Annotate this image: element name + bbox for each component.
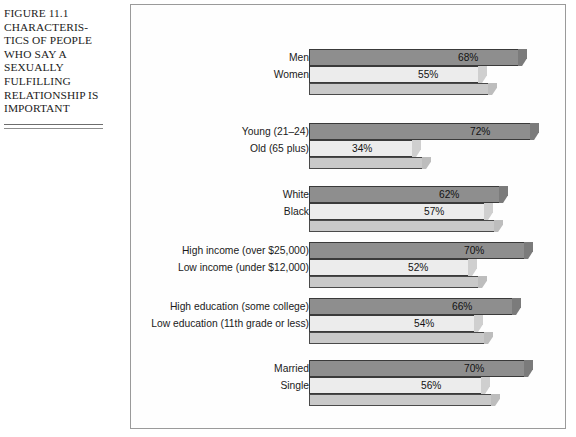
bar-row: Women55%	[131, 66, 567, 83]
base-plate-end-cap-3d	[488, 83, 497, 95]
figure-caption: FIGURE 11.1 CHARACTERIS- TICS OF PEOPLE …	[4, 7, 116, 129]
bar-wrapper: 56%	[309, 377, 483, 394]
bar-end-cap-3d	[412, 140, 421, 157]
bar-category-label: Black	[284, 204, 309, 219]
bar-end-cap-3d	[468, 259, 477, 276]
bar-category-label: Old (65 plus)	[250, 141, 309, 156]
bar-wrapper: 72%	[309, 123, 532, 140]
bar-category-label: White	[283, 187, 309, 202]
bar-value-label: 52%	[408, 260, 428, 275]
bar-end-cap-3d	[484, 203, 493, 220]
bar-value-label: 62%	[439, 187, 459, 202]
bar-end-cap-3d	[524, 242, 533, 259]
base-plate-end-cap-3d	[491, 394, 500, 406]
bar-group-marital-status: Married70%Single56%	[131, 360, 567, 408]
bar-category-label: Single	[280, 378, 309, 393]
bar-end-cap-3d	[512, 298, 521, 315]
bar-row: Men68%	[131, 49, 567, 66]
bar	[309, 259, 470, 276]
bar-value-label: 72%	[470, 124, 490, 139]
bar-value-label: 57%	[424, 204, 444, 219]
bar-category-label: Low education (11th grade or less)	[151, 316, 309, 331]
bar-wrapper: 57%	[309, 203, 486, 220]
bar-group-gender: Men68%Women55%	[131, 49, 567, 97]
bar-category-label: Women	[274, 67, 309, 82]
bar-wrapper: 34%	[309, 140, 414, 157]
bar-end-cap-3d	[524, 360, 533, 377]
bar-wrapper: 62%	[309, 186, 501, 203]
bar-row: Low education (11th grade or less)54%	[131, 315, 567, 332]
bar-group-race: White62%Black57%	[131, 186, 567, 234]
bar-row: Low income (under $12,000)52%	[131, 259, 567, 276]
bar	[309, 49, 520, 66]
bar-row: Black57%	[131, 203, 567, 220]
bar	[309, 315, 476, 332]
bar-value-label: 54%	[414, 316, 434, 331]
bar-category-label: Young (21–24)	[242, 124, 309, 139]
base-plate-end-cap-3d	[422, 157, 431, 169]
bar-end-cap-3d	[530, 123, 539, 140]
bar-row: Single56%	[131, 377, 567, 394]
base-plate-end-cap-3d	[478, 276, 487, 288]
bar-category-label: High education (some college)	[170, 299, 309, 314]
bar-end-cap-3d	[478, 66, 487, 83]
bar-wrapper: 54%	[309, 315, 476, 332]
bar-group-base-plate	[309, 220, 496, 232]
bar-row: High income (over $25,000)70%	[131, 242, 567, 259]
figure-caption-line: IMPORTANT	[4, 102, 116, 116]
bar-group-education: High education (some college)66%Low educ…	[131, 298, 567, 346]
bar-wrapper: 52%	[309, 259, 470, 276]
bar	[309, 242, 526, 259]
bar-end-cap-3d	[474, 315, 483, 332]
bar	[309, 186, 501, 203]
bar-category-label: Low income (under $12,000)	[178, 260, 309, 275]
bar-wrapper: 55%	[309, 66, 480, 83]
bar-wrapper: 66%	[309, 298, 514, 315]
bar-group-base-plate	[309, 276, 480, 288]
bar-row: Married70%	[131, 360, 567, 377]
caption-divider-rule	[4, 124, 103, 129]
bar-value-label: 68%	[458, 50, 478, 65]
bar-group-base-plate	[309, 83, 490, 95]
bar	[309, 203, 486, 220]
bar-row: High education (some college)66%	[131, 298, 567, 315]
bar-value-label: 34%	[352, 141, 372, 156]
base-plate-end-cap-3d	[484, 332, 493, 344]
bar-category-label: Men	[289, 50, 309, 65]
bar-group-base-plate	[309, 332, 486, 344]
bar-end-cap-3d	[481, 377, 490, 394]
base-plate-end-cap-3d	[494, 220, 503, 232]
figure-caption-line: CHARACTERIS-	[4, 21, 116, 35]
bar-row: Old (65 plus)34%	[131, 140, 567, 157]
bar-wrapper: 70%	[309, 360, 526, 377]
bar-group-age: Young (21–24)72%Old (65 plus)34%	[131, 123, 567, 171]
bar	[309, 66, 480, 83]
figure-caption-line: RELATIONSHIP IS	[4, 89, 116, 103]
bar-group-income: High income (over $25,000)70%Low income …	[131, 242, 567, 290]
bar	[309, 298, 514, 315]
bar-value-label: 66%	[452, 299, 472, 314]
bar-row: Young (21–24)72%	[131, 123, 567, 140]
figure-caption-line: FULFILLING	[4, 75, 116, 89]
bar	[309, 377, 483, 394]
bar	[309, 360, 526, 377]
bar-group-base-plate	[309, 157, 424, 169]
bar-end-cap-3d	[499, 186, 508, 203]
figure-caption-line: WHO SAY A	[4, 48, 116, 62]
bar-wrapper: 68%	[309, 49, 520, 66]
figure-caption-line: FIGURE 11.1	[4, 7, 116, 21]
bar-category-label: Married	[274, 361, 309, 376]
chart-frame: Men68%Women55%Young (21–24)72%Old (65 pl…	[130, 4, 566, 429]
bar-category-label: High income (over $25,000)	[182, 243, 309, 258]
bar-value-label: 70%	[464, 243, 484, 258]
bar-value-label: 56%	[421, 378, 441, 393]
bar-chart-plot-area: Men68%Women55%Young (21–24)72%Old (65 pl…	[131, 5, 567, 430]
bar-value-label: 70%	[464, 361, 484, 376]
bar-end-cap-3d	[518, 49, 527, 66]
figure-caption-line: SEXUALLY	[4, 61, 116, 75]
bar	[309, 123, 532, 140]
bar-row: White62%	[131, 186, 567, 203]
bar-group-base-plate	[309, 394, 493, 406]
bar-value-label: 55%	[418, 67, 438, 82]
figure-caption-line: TICS OF PEOPLE	[4, 34, 116, 48]
